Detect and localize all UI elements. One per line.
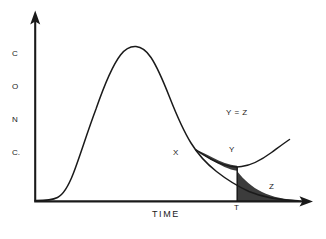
region-label-x: X — [173, 148, 178, 157]
x-axis-label: TIME — [152, 209, 180, 219]
extrapolation-curve — [196, 140, 290, 167]
y-axis-label-letter-1: C — [12, 48, 28, 59]
x-axis-tick-label-t: T — [234, 203, 239, 212]
y-axis-label-letter-2: O — [12, 81, 28, 92]
y-axis-label-letter-3: N — [12, 114, 28, 125]
y-axis-label-letter-4: C. — [12, 147, 28, 158]
concentration-curve — [36, 47, 298, 201]
concentration-time-figure: C O N C. TIME T X Y Z Y = Z — [0, 0, 326, 239]
region-label-z: Z — [269, 182, 274, 191]
y-axis-label: C O N C. — [12, 26, 28, 180]
region-label-y: Y — [229, 145, 234, 154]
equality-annotation: Y = Z — [226, 108, 248, 117]
plot-canvas — [0, 0, 326, 239]
